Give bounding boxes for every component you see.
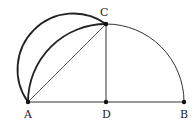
- arc-CB: [106, 24, 184, 102]
- point-B: [182, 100, 186, 104]
- label-B: B: [180, 108, 188, 121]
- label-A: A: [23, 108, 33, 121]
- arc-AC-small-semicircle: [18, 14, 106, 102]
- point-C: [104, 22, 108, 26]
- label-D: D: [102, 108, 111, 121]
- label-C: C: [100, 6, 108, 19]
- point-A: [26, 100, 30, 104]
- geometry-figure: A D B C: [0, 0, 196, 121]
- segment-AC: [28, 24, 106, 102]
- point-D: [104, 100, 108, 104]
